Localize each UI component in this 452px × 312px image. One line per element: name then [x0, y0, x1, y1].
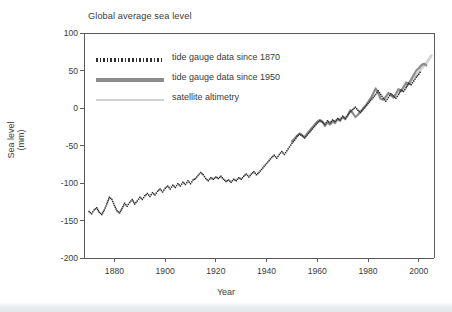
legend-item-tide-1950: tide gauge data since 1950	[96, 70, 336, 90]
chart-plot-area	[0, 0, 452, 312]
sea-level-chart-figure: Global average sea level Sea level (mm) …	[0, 0, 452, 312]
x-tick-label: 1900	[156, 266, 175, 276]
x-tick-label: 1920	[206, 266, 225, 276]
y-tick-label: 50	[48, 66, 78, 76]
dotted-line-sample-icon	[96, 58, 164, 62]
y-tick-label: -150	[48, 216, 78, 226]
x-tick-label: 1980	[358, 266, 377, 276]
chart-title: Global average sea level	[88, 11, 192, 21]
x-axis-label: Year	[0, 287, 452, 297]
x-tick-label: 1880	[105, 266, 124, 276]
y-tick-label: -200	[48, 253, 78, 263]
y-tick-label: -100	[48, 178, 78, 188]
y-axis-label: Sea level (mm)	[6, 100, 26, 180]
y-tick-label: 0	[48, 103, 78, 113]
chart-background	[0, 0, 452, 312]
x-tick-label: 2000	[409, 266, 428, 276]
legend-label-tide-1950: tide gauge data since 1950	[172, 72, 280, 82]
y-tick-label: 100	[48, 28, 78, 38]
legend-label-tide-1870: tide gauge data since 1870	[172, 52, 280, 62]
y-tick-label: -50	[48, 141, 78, 151]
light-gray-line-sample-icon	[96, 99, 164, 101]
y-axis-label-line1: Sea level	[6, 100, 16, 180]
chart-legend: tide gauge data since 1870 tide gauge da…	[96, 50, 336, 110]
legend-label-satellite: satellite altimetry	[172, 92, 239, 102]
legend-item-tide-1870: tide gauge data since 1870	[96, 50, 336, 70]
y-axis-label-line2: (mm)	[16, 100, 26, 180]
x-tick-label: 1960	[308, 266, 327, 276]
solid-gray-line-sample-icon	[96, 78, 164, 82]
x-tick-label: 1940	[257, 266, 276, 276]
page-bottom-band	[0, 302, 452, 312]
legend-item-satellite: satellite altimetry	[96, 90, 336, 110]
